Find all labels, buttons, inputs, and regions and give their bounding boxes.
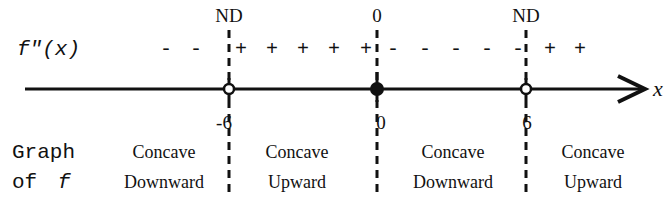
sign: - <box>512 38 524 61</box>
row-label-fpp: f"(x) <box>17 38 80 61</box>
concavity-1-line1: Concave <box>133 142 196 162</box>
sign-group-2: + + + + + <box>235 38 372 61</box>
open-circle-6 <box>521 84 531 94</box>
sign: + <box>235 38 247 61</box>
concavity-3-line1: Concave <box>422 142 485 162</box>
sign: - <box>450 38 462 61</box>
concavity-1-line2: Downward <box>124 172 204 192</box>
concavity-3-line2: Downward <box>413 172 493 192</box>
graph-label-of: of <box>12 171 37 194</box>
concavity-2-line2: Upward <box>268 172 326 192</box>
sign: + <box>328 38 340 61</box>
graph-label-line1: Graph <box>12 141 75 164</box>
tick-label-6: 6 <box>522 112 532 133</box>
concavity-4-line1: Concave <box>562 142 625 162</box>
filled-circle-0 <box>371 83 383 95</box>
open-circle-neg6 <box>224 84 234 94</box>
sign: + <box>297 38 309 61</box>
top-label-neg6: ND <box>215 5 242 26</box>
top-label-0: 0 <box>372 5 382 26</box>
sign-group-1: - - <box>160 38 202 61</box>
sign-group-3: - - - - - <box>387 38 524 61</box>
sign: - <box>419 38 431 61</box>
sign: + <box>574 38 586 61</box>
tick-label-neg6: -6 <box>216 112 232 133</box>
sign: - <box>481 38 493 61</box>
tick-label-0: 0 <box>376 112 386 133</box>
sign: + <box>544 38 556 61</box>
axis-label: x <box>652 76 663 101</box>
top-label-6: ND <box>512 5 539 26</box>
sign: + <box>266 38 278 61</box>
sign-group-4: + + <box>544 38 586 61</box>
sign: - <box>387 38 399 61</box>
concavity-2-line1: Concave <box>266 142 329 162</box>
sign: + <box>360 38 372 61</box>
sign: - <box>190 38 202 61</box>
concavity-4-line2: Upward <box>564 172 622 192</box>
sign-chart-diagram: x ND 0 ND f"(x) - - + + + + + - - - - - … <box>0 0 668 198</box>
graph-label-line2: of f <box>12 171 72 194</box>
graph-label-f: f <box>58 171 72 194</box>
sign: - <box>160 38 172 61</box>
